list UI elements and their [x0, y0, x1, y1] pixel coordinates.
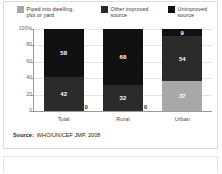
legend-label-other-improved: Other improved source [111, 6, 160, 19]
y-axis-tickmark-60 [30, 62, 33, 63]
source-prefix: Source: [13, 132, 34, 138]
bar-segment-total-1[interactable]: 42 [44, 77, 84, 111]
bar-value-label: 58 [60, 50, 67, 56]
y-axis-tickmark-0 [30, 111, 33, 112]
bar-segment-urban-0[interactable]: 37 [162, 81, 202, 111]
chart-legend: Piped into dwelling, plot or yard Other … [4, 2, 219, 29]
legend-swatch-unimproved-icon [168, 6, 175, 13]
legend-swatch-piped-icon [17, 6, 24, 13]
y-axis-tickmark-20 [30, 95, 33, 96]
legend-label-piped: Piped into dwelling, plot or yard [27, 6, 80, 19]
legend-item-other-improved: Other improved source [101, 6, 159, 19]
y-axis-tickmark-100 [30, 29, 33, 30]
bar-value-label-zero: 0 [85, 105, 88, 111]
bar-value-label-zero: 0 [144, 105, 147, 111]
bar-segment-total-2[interactable]: 58 [44, 29, 84, 77]
page-lower-strip [3, 156, 218, 173]
chart-figure-panel: Piped into dwelling, plot or yard Other … [3, 1, 218, 149]
chart-bars: 042580326837549 [34, 29, 212, 111]
bar-segment-urban-2[interactable]: 9 [162, 29, 202, 36]
bar-segment-rural-1[interactable]: 32 [103, 85, 143, 111]
chart-plot-area: 020406080100% 042580326837549 TotalRural… [4, 29, 219, 129]
bar-value-label: 54 [179, 56, 186, 62]
gridline-0 [34, 111, 212, 112]
y-axis-tickmark-80 [30, 45, 33, 46]
x-axis-category-labels: TotalRuralUrban [34, 116, 212, 126]
chart-source-note: Source:WHO/UNICEF JMP, 2008 [13, 132, 100, 139]
x-axis-label-rural: Rural [95, 116, 151, 122]
legend-swatch-other-improved-icon [101, 6, 108, 13]
y-axis-tickmark-40 [30, 78, 33, 79]
source-text: WHO/UNICEF JMP, 2008 [37, 132, 101, 138]
bar-value-label: 9 [181, 30, 184, 36]
bar-value-label: 68 [120, 54, 127, 60]
bar-value-label: 42 [60, 91, 67, 97]
bar-segment-urban-1[interactable]: 54 [162, 36, 202, 80]
bar-segment-rural-2[interactable]: 68 [103, 29, 143, 85]
legend-item-unimproved: Unimproved source [168, 6, 220, 19]
x-axis-label-urban: Urban [154, 116, 210, 122]
y-axis-tick-labels: 020406080100% [12, 29, 32, 117]
bar-value-label: 37 [179, 93, 186, 99]
legend-item-piped: Piped into dwelling, plot or yard [17, 6, 79, 19]
bar-value-label: 32 [120, 95, 127, 101]
legend-label-unimproved: Unimproved source [178, 6, 221, 19]
x-axis-label-total: Total [36, 116, 92, 122]
